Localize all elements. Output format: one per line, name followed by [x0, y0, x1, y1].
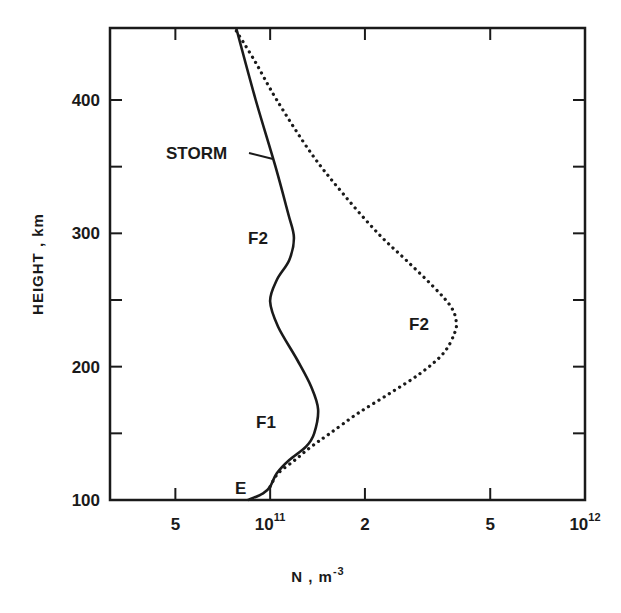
x-axis-title-exp: -3 — [333, 565, 345, 577]
ionosphere-density-chart: 51011251012100200300400 STORM F2 F2 F1 E… — [0, 0, 621, 613]
axis-ticks — [110, 28, 585, 500]
plot-border — [110, 28, 585, 500]
y-tick-label: 300 — [72, 224, 100, 243]
f2-storm-label: F2 — [248, 229, 268, 248]
x-axis-title-base: N , m — [291, 568, 333, 585]
x-tick-label: 2 — [360, 515, 369, 534]
f2-quiet-label: F2 — [409, 315, 429, 334]
x-tick-label: 5 — [171, 515, 180, 534]
plot-frame — [110, 28, 585, 500]
y-tick-label: 400 — [72, 91, 100, 110]
y-axis-title: HEIGHT , km — [29, 213, 46, 315]
e-label: E — [235, 479, 246, 498]
storm-pointer-line — [249, 153, 273, 159]
tick-labels: 51011251012100200300400 — [72, 91, 601, 534]
x-tick-exponent: 12 — [588, 511, 600, 523]
x-tick-label: 5 — [485, 515, 494, 534]
y-tick-label: 200 — [72, 358, 100, 377]
storm-label: STORM — [166, 144, 227, 163]
y-tick-label: 100 — [72, 491, 100, 510]
x-tick-label: 1012 — [569, 511, 600, 534]
x-axis-title: N , m-3 — [291, 565, 344, 585]
f1-label: F1 — [256, 413, 276, 432]
x-tick-label: 1011 — [255, 511, 286, 534]
x-tick-exponent: 11 — [274, 511, 286, 523]
